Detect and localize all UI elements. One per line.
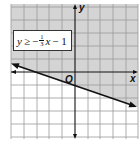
slope-denominator: 3 [40,41,43,48]
origin-label: O [65,74,73,85]
inequality-variable: x [45,35,50,47]
inequality-sign: − [32,35,38,47]
inequality-lhs: y [17,35,22,47]
y-axis-label: y [79,2,85,13]
coordinate-plane [0,0,140,142]
line-arrow-left-icon [11,63,20,69]
inequality-relation: ≥ [24,35,30,47]
inequality-constant: − 1 [52,35,66,47]
y-axis-arrow-down-icon [73,134,77,139]
inequality-label: y ≥ − 1 3 x − 1 [13,30,72,51]
slope-fraction: 1 3 [39,34,44,48]
x-axis-label: x [130,73,136,84]
x-axis-arrow-left-icon [11,70,16,74]
